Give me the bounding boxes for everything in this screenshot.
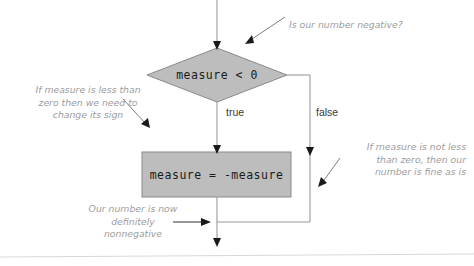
false-arrowhead-icon [306,147,314,156]
note-negative-arrowhead-icon [245,35,254,44]
decision-node-text: measure < 0 [147,68,287,82]
branch-label-false: false [316,106,338,118]
note-nonnegative-arrowhead-icon [201,218,211,226]
process-node-text: measure = -measure [142,168,291,182]
note-negative-leader-line [249,17,285,41]
annotation-is-number-negative: Is our number negative? [289,19,403,32]
annotation-now-nonnegative: Our number is now definitely nonnegative [68,203,198,241]
footer-rule [0,254,474,257]
branch-label-true: true [226,106,244,118]
annotation-if-not-less-than-zero: If measure is not less than zero, then o… [330,141,466,179]
exit-arrowhead-icon [213,238,221,247]
annotation-if-less-than-zero: If measure is less than zero then we nee… [12,84,164,122]
flowchart-diagram: measure < 0 measure = -measure true fals… [0,0,474,266]
